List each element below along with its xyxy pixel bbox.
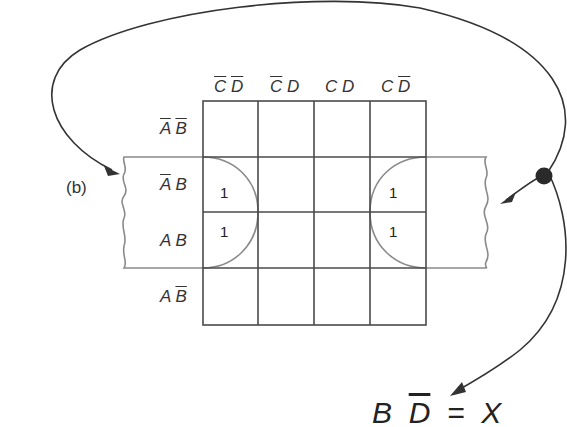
row-header-a-b: A B — [160, 231, 187, 251]
junction-dot-icon — [536, 168, 553, 185]
result-expression: B D = X — [372, 396, 501, 427]
wraparound-arrow — [52, 1, 566, 392]
arrowhead-left-icon — [104, 166, 120, 176]
col-header-cbar-dbar: C D — [214, 77, 243, 97]
cell-r1-c0: 1 — [220, 184, 228, 201]
figure-label: (b) — [66, 178, 87, 198]
cell-r2-c3: 1 — [389, 223, 397, 240]
row-header-abar-bbar: A B — [160, 119, 187, 139]
row-header-a-bbar: A B — [160, 287, 187, 307]
row-header-abar-b: A B — [160, 175, 187, 195]
col-header-c-dbar: C D — [381, 77, 410, 97]
cell-r1-c3: 1 — [389, 184, 397, 201]
arrowheads — [104, 166, 516, 396]
kmap-grid — [203, 101, 426, 325]
col-header-c-d: C D — [325, 77, 354, 97]
col-header-cbar-d: C D — [270, 77, 299, 97]
cell-r2-c0: 1 — [220, 223, 228, 240]
arrowhead-down-icon — [450, 382, 466, 396]
